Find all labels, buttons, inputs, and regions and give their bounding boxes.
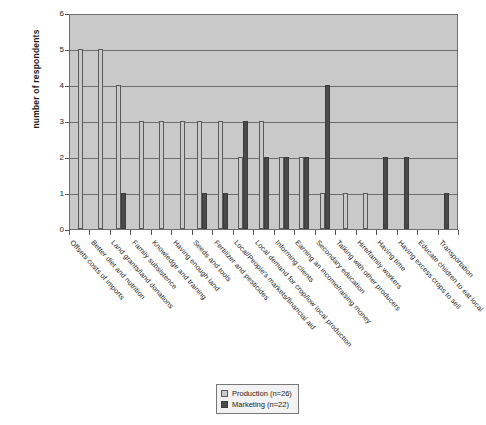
y-axis-tick-label: 5 [38,45,64,54]
bar-production [98,49,103,229]
y-axis-title: number of respondents [31,0,41,159]
bar-group [233,15,253,229]
y-axis-tick-label: 1 [38,189,64,198]
bar-production [363,193,368,229]
legend-swatch-production-icon [221,390,228,397]
y-axis-tick-label: 2 [38,153,64,162]
bar-group [172,15,192,229]
plot-area [69,14,458,230]
bar-production [180,121,185,229]
bar-marketing [404,157,409,229]
bar-group [335,15,355,229]
bar-group [315,15,335,229]
bar-group [376,15,396,229]
bar-marketing [223,193,228,229]
bar-group [274,15,294,229]
bar-marketing [243,121,248,229]
bar-production [139,121,144,229]
bar-group [253,15,273,229]
legend-item-marketing: Marketing (n=22) [221,399,292,410]
bar-group [294,15,314,229]
bar-group [437,15,457,229]
legend-label-production: Production (n=26) [232,389,292,398]
bar-series-container [70,15,457,229]
bar-marketing [284,157,289,229]
bar-group [416,15,436,229]
legend-label-marketing: Marketing (n=22) [232,400,289,409]
bar-group [131,15,151,229]
bar-production [343,193,348,229]
legend: Production (n=26) Marketing (n=22) [216,384,299,414]
bar-group [192,15,212,229]
legend-item-production: Production (n=26) [221,388,292,399]
bar-marketing [304,157,309,229]
bar-marketing [383,157,388,229]
bar-production [78,49,83,229]
bar-marketing [325,85,330,229]
bar-marketing [264,157,269,229]
bar-group [152,15,172,229]
bar-group [355,15,375,229]
bar-marketing [121,193,126,229]
bar-group [111,15,131,229]
y-axis-tick-label: 0 [38,225,64,234]
bar-marketing [444,193,449,229]
y-axis-tick-label: 4 [38,81,64,90]
bar-group [213,15,233,229]
bar-group [90,15,110,229]
y-axis-tick-label: 6 [38,9,64,18]
bar-production [159,121,164,229]
bar-group [70,15,90,229]
legend-swatch-marketing-icon [221,401,228,408]
bar-marketing [202,193,207,229]
y-axis-tick-label: 3 [38,117,64,126]
x-axis-labels: Offsets costs of importsBetter diet and … [0,234,468,359]
bar-group [396,15,416,229]
